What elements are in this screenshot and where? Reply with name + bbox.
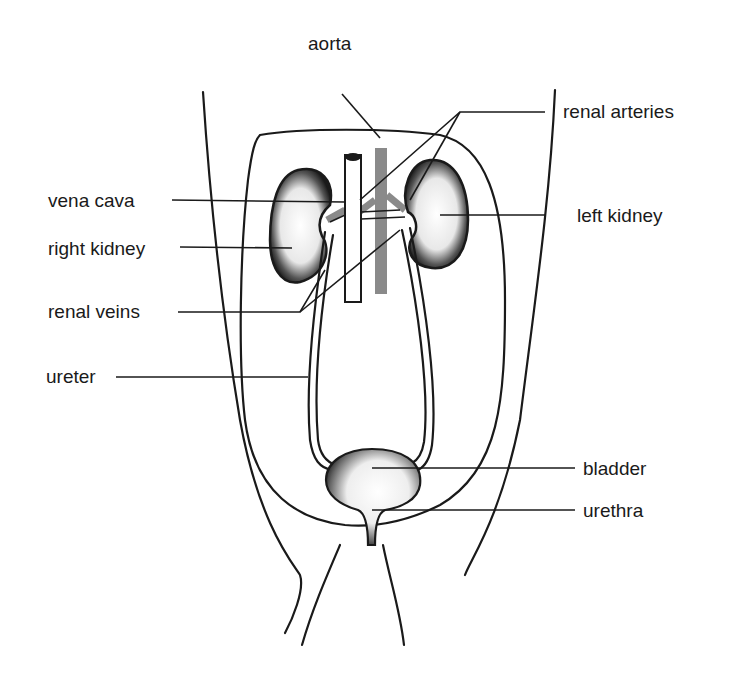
label-ureter: ureter: [46, 366, 96, 387]
vena-cava: [330, 153, 405, 302]
label-renal-arteries: renal arteries: [563, 101, 674, 122]
ureters: [309, 228, 434, 470]
urinary-system-diagram: aorta renal arteries vena cava left kidn…: [0, 0, 742, 679]
label-left-kidney: left kidney: [577, 205, 663, 226]
label-urethra: urethra: [583, 500, 644, 521]
label-bladder: bladder: [583, 458, 647, 479]
label-vena-cava: vena cava: [48, 190, 135, 211]
label-renal-veins: renal veins: [48, 301, 140, 322]
bladder: [326, 449, 420, 545]
label-right-kidney: right kidney: [48, 238, 146, 259]
right-kidney: [270, 169, 331, 282]
label-aorta: aorta: [308, 33, 352, 54]
